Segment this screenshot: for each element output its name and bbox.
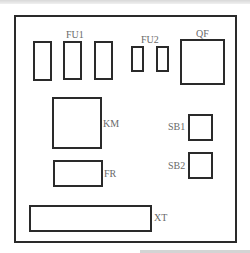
fr-label: FR [104,169,116,179]
scan-edge-top [0,0,250,4]
sb1-label: SB1 [168,122,185,132]
fu1-fuse-1 [33,41,52,81]
fu1-fuse-2 [63,41,82,80]
km-contactor [52,97,102,149]
xt-label: XT [154,213,167,223]
fu1-fuse-3 [94,41,113,80]
fu1-label: FU1 [66,30,84,40]
sb1-button [188,114,213,141]
sb2-label: SB2 [168,161,185,171]
km-label: KM [103,119,119,129]
fu2-fuse-1 [131,46,144,72]
fu2-label: FU2 [141,35,159,45]
sb2-button [188,152,213,179]
fu2-fuse-2 [156,46,169,72]
xt-terminal-block [29,205,152,232]
qf-label: QF [196,29,209,39]
qf-breaker [180,39,225,85]
fr-relay [53,160,103,187]
